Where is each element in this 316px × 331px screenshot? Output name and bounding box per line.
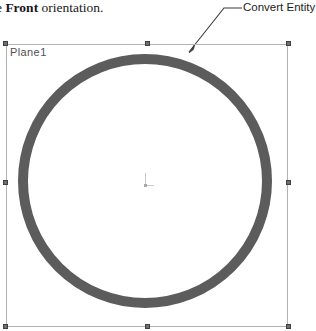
sketch-origin-icon (143, 173, 155, 189)
plane-handle-top-right[interactable] (286, 41, 291, 46)
plane-name-label: Plane1 (10, 46, 47, 59)
plane-handle-middle-left[interactable] (3, 180, 8, 185)
caption-suffix: orientation. (38, 0, 103, 15)
caption-bold-word: Front (5, 0, 38, 15)
caption-text: e Front orientation. (0, 0, 196, 17)
plane-handle-middle-right[interactable] (286, 180, 291, 185)
callout-label-convert-entity: Convert Entity (243, 0, 315, 15)
plane-handle-bottom-left[interactable] (3, 324, 8, 329)
plane-handle-top-left[interactable] (3, 41, 8, 46)
plane-handle-bottom-right[interactable] (286, 324, 291, 329)
plane-handle-top-middle[interactable] (145, 41, 150, 46)
plane-handle-bottom-middle[interactable] (145, 324, 150, 329)
origin-point (144, 184, 147, 187)
